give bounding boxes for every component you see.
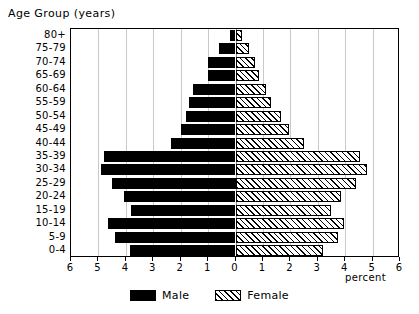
legend-swatch-female-icon — [215, 290, 241, 301]
bar-male — [124, 191, 235, 202]
age-group-label: 20-24 — [4, 190, 66, 201]
x-tick-label: 3 — [142, 262, 162, 273]
bar-male — [171, 138, 235, 149]
bar-male — [130, 245, 236, 256]
x-tick-mark — [97, 257, 98, 261]
bar-female — [236, 178, 357, 189]
x-tick-mark — [235, 257, 236, 261]
bar-male — [219, 43, 235, 54]
age-group-label: 40-44 — [4, 137, 66, 148]
age-group-label: 55-59 — [4, 96, 66, 107]
x-tick-label: 4 — [115, 262, 135, 273]
chart-legend: Male Female — [0, 286, 419, 304]
bar-female — [236, 30, 243, 41]
chart-title: Age Group (years) — [8, 7, 115, 20]
legend-swatch-male-icon — [130, 290, 156, 301]
age-group-label: 0-4 — [4, 244, 66, 255]
bar-male — [193, 84, 235, 95]
bar-row — [71, 190, 398, 204]
bar-female — [236, 124, 289, 135]
age-group-label: 25-29 — [4, 177, 66, 188]
age-group-label: 75-79 — [4, 42, 66, 53]
age-group-label: 50-54 — [4, 110, 66, 121]
x-tick-mark — [317, 257, 318, 261]
legend-label-female: Female — [247, 289, 289, 302]
bar-female — [236, 43, 250, 54]
bar-row — [71, 204, 398, 218]
bar-female — [236, 232, 339, 243]
bar-female — [236, 191, 342, 202]
x-tick-mark — [372, 257, 373, 261]
legend-item-female: Female — [215, 289, 289, 302]
x-tick-label: 2 — [279, 262, 299, 273]
bar-row — [71, 244, 398, 257]
bar-female — [236, 70, 259, 81]
legend-label-male: Male — [162, 289, 189, 302]
bar-row — [71, 69, 398, 83]
bar-male — [112, 178, 235, 189]
bar-male — [186, 111, 235, 122]
bar-male — [181, 124, 236, 135]
bar-male — [189, 97, 236, 108]
x-tick-mark — [125, 257, 126, 261]
age-group-label: 65-69 — [4, 69, 66, 80]
x-tick-label: 0 — [225, 262, 245, 273]
age-group-label: 70-74 — [4, 56, 66, 67]
age-group-label: 30-34 — [4, 163, 66, 174]
x-tick-label: 5 — [87, 262, 107, 273]
bar-female — [236, 205, 332, 216]
bar-female — [236, 245, 324, 256]
x-tick-mark — [152, 257, 153, 261]
bar-row — [71, 56, 398, 70]
x-tick-mark — [262, 257, 263, 261]
bar-row — [71, 137, 398, 151]
bar-row — [71, 150, 398, 164]
x-tick-label: 1 — [197, 262, 217, 273]
bar-row — [71, 96, 398, 110]
bar-female — [236, 151, 361, 162]
bar-male — [208, 70, 235, 81]
bar-male — [108, 218, 235, 229]
bar-row — [71, 123, 398, 137]
x-tick-mark — [207, 257, 208, 261]
plot-area — [70, 28, 399, 257]
bar-male — [131, 205, 235, 216]
x-tick-label: 2 — [170, 262, 190, 273]
age-group-label: 5-9 — [4, 231, 66, 242]
population-pyramid-chart: Age Group (years) 80+75-7970-7465-6960-6… — [0, 0, 419, 314]
x-tick-label: 1 — [252, 262, 272, 273]
bar-female — [236, 111, 281, 122]
x-tick-label: 3 — [307, 262, 327, 273]
bar-female — [236, 57, 255, 68]
bar-row — [71, 83, 398, 97]
age-group-label: 10-14 — [4, 217, 66, 228]
bar-row — [71, 217, 398, 231]
bar-male — [208, 57, 235, 68]
bar-female — [236, 84, 266, 95]
bar-female — [236, 164, 368, 175]
bar-row — [71, 110, 398, 124]
bar-female — [236, 138, 305, 149]
age-group-label: 60-64 — [4, 83, 66, 94]
bar-row — [71, 29, 398, 43]
age-group-label: 45-49 — [4, 123, 66, 134]
age-group-axis-labels: 80+75-7970-7465-6960-6455-5950-5445-4940… — [0, 28, 66, 257]
bar-female — [236, 218, 344, 229]
x-axis-unit-label: percent — [345, 272, 386, 283]
bar-male — [101, 164, 235, 175]
legend-item-male: Male — [130, 289, 189, 302]
x-tick-mark — [344, 257, 345, 261]
bar-row — [71, 231, 398, 245]
age-group-label: 80+ — [4, 29, 66, 40]
x-tick-mark — [399, 257, 400, 261]
bar-row — [71, 177, 398, 191]
bar-female — [236, 97, 272, 108]
bar-male — [115, 232, 236, 243]
age-group-label: 35-39 — [4, 150, 66, 161]
x-tick-label: 6 — [389, 262, 409, 273]
bar-row — [71, 163, 398, 177]
x-tick-mark — [180, 257, 181, 261]
x-tick-mark — [289, 257, 290, 261]
x-tick-label: 6 — [60, 262, 80, 273]
age-group-label: 15-19 — [4, 204, 66, 215]
